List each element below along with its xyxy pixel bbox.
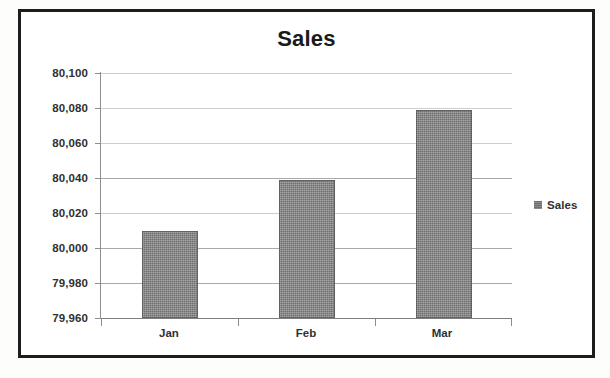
x-tick-mark [375, 319, 376, 326]
x-axis-line [101, 318, 512, 319]
x-tick-mark [101, 319, 102, 326]
y-tick-label: 80,040 [26, 172, 88, 184]
plot-area [101, 73, 512, 318]
x-tick-mark [238, 319, 239, 326]
scanned-page: Sales 80,100 80,080 80,060 80,040 80,020… [0, 0, 610, 378]
chart-title: Sales [21, 26, 592, 52]
x-tick-label-feb: Feb [246, 327, 366, 339]
gridline [101, 73, 512, 74]
y-tick-label: 80,020 [26, 207, 88, 219]
y-tick-label: 80,080 [26, 102, 88, 114]
y-tick-label: 80,100 [26, 67, 88, 79]
legend-swatch-icon [534, 201, 542, 209]
y-tick-label: 80,060 [26, 137, 88, 149]
bar-feb[interactable] [279, 180, 335, 318]
y-tick-label: 79,960 [26, 312, 88, 324]
x-tick-mark [511, 319, 512, 326]
chart-legend: Sales [534, 199, 578, 211]
bar-jan[interactable] [142, 231, 198, 319]
y-tick-label: 79,980 [26, 277, 88, 289]
x-tick-label-jan: Jan [109, 327, 229, 339]
x-tick-label-mar: Mar [382, 327, 502, 339]
bar-mar[interactable] [416, 110, 472, 318]
y-tick-label: 80,000 [26, 242, 88, 254]
legend-label: Sales [547, 199, 578, 211]
y-axis-tick-labels: 80,100 80,080 80,060 80,040 80,020 80,00… [24, 0, 88, 378]
